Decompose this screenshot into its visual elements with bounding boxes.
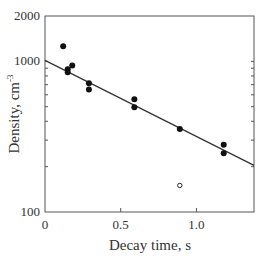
data-points (60, 43, 227, 187)
fit-line (45, 60, 254, 165)
plot-frame (45, 16, 254, 212)
y-tick-label: 1000 (14, 53, 40, 68)
data-point (86, 80, 92, 86)
axis-ticks (45, 61, 254, 212)
data-point (86, 87, 92, 93)
data-point (221, 142, 227, 148)
x-tick-label: 0 (42, 217, 49, 232)
data-point (69, 62, 75, 68)
open-data-point (178, 183, 182, 187)
x-tick-label: 1.0 (188, 217, 204, 232)
data-point (131, 104, 137, 110)
y-tick-label: 100 (21, 204, 41, 219)
y-axis-label: Density, cm-3 (5, 74, 22, 154)
y-tick-label: 2000 (14, 8, 40, 23)
data-point (65, 69, 71, 75)
fit-line (45, 60, 254, 165)
data-point (221, 150, 227, 156)
x-tick-label: 0.5 (113, 217, 129, 232)
data-point (60, 43, 66, 49)
tick-labels: 00.51.010010002000 (14, 8, 205, 232)
decay-density-chart: 00.51.010010002000 Decay time, s Density… (0, 0, 263, 259)
data-point (131, 96, 137, 102)
data-point (177, 126, 183, 132)
x-axis-label: Decay time, s (109, 237, 191, 253)
